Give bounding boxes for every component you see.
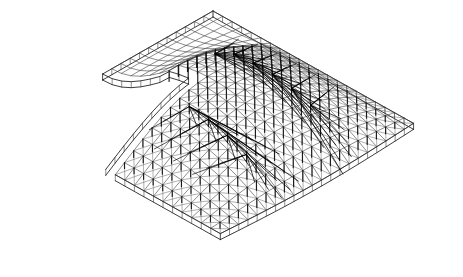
structure-wireframe xyxy=(0,0,463,277)
drawing-canvas: Axonometric wireframe of a doubly-curved… xyxy=(0,0,463,277)
